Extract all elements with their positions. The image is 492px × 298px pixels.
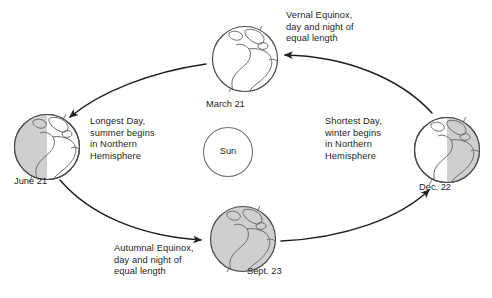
arrow-to-june-path xyxy=(70,64,206,117)
caption-winter-solstice: Shortest Day, winter begins in Northern … xyxy=(325,116,382,162)
caption-autumnal-equinox: Autumnal Equinox, day and night of equal… xyxy=(114,243,194,278)
seasons-orbit-diagram: Sun Vernal Equinox, day and night of equ… xyxy=(0,0,492,298)
earth-sept-23 xyxy=(211,206,278,273)
arrow-to-dec-path xyxy=(281,190,429,241)
date-label-sept-23: Sept. 23 xyxy=(247,266,282,277)
globe-march xyxy=(213,27,278,92)
date-label-june-21: June 21 xyxy=(14,176,47,187)
caption-vernal-equinox: Vernal Equinox, day and night of equal l… xyxy=(286,10,354,45)
earth-march-21 xyxy=(213,26,280,93)
sun-label: Sun xyxy=(204,146,252,156)
earth-dec-22 xyxy=(415,113,485,187)
night-shade-dec xyxy=(447,113,484,187)
arrow-to-march-path xyxy=(285,55,432,113)
arrow-to-sept-path xyxy=(60,180,201,240)
globe-sept xyxy=(211,207,276,272)
caption-summer-solstice: Longest Day, summer begins in Northern H… xyxy=(90,116,155,162)
date-label-march-21: March 21 xyxy=(206,99,245,110)
earth-june-21 xyxy=(10,110,81,184)
date-label-dec-22: Dec. 22 xyxy=(419,182,451,193)
night-shade-june xyxy=(10,110,47,184)
